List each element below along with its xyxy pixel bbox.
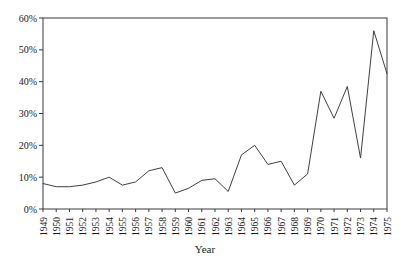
y-tick-label: 0% — [24, 204, 37, 215]
x-tick-label: 1966 — [263, 217, 273, 236]
x-tick-label: 1975 — [383, 217, 393, 236]
x-tick-label: 1970 — [316, 217, 326, 236]
x-tick-label: 1962 — [211, 217, 221, 236]
x-tick-label: 1963 — [224, 217, 234, 236]
x-tick-label: 1971 — [330, 217, 340, 236]
x-tick-label: 1972 — [343, 217, 353, 236]
x-tick-label: 1954 — [105, 217, 115, 236]
x-tick-label: 1965 — [250, 217, 260, 236]
x-tick-label: 1960 — [184, 217, 194, 236]
x-tick-label: 1958 — [158, 217, 168, 236]
x-tick-label: 1959 — [171, 217, 181, 236]
x-tick-label: 1961 — [197, 217, 207, 236]
y-tick-label: 50% — [19, 44, 37, 55]
y-tick-label: 20% — [19, 140, 37, 151]
x-tick-label: 1968 — [290, 217, 300, 236]
x-tick-label: 1969 — [303, 217, 313, 236]
x-tick-label: 1950 — [52, 217, 62, 236]
y-tick-label: 10% — [19, 172, 37, 183]
y-tick-label: 40% — [19, 76, 37, 87]
y-tick-label: 60% — [19, 13, 37, 24]
x-tick-label: 1974 — [369, 217, 379, 236]
x-tick-label: 1952 — [78, 217, 88, 236]
data-line — [43, 31, 387, 193]
x-tick-label: 1956 — [131, 217, 141, 236]
plot-border — [43, 18, 387, 209]
x-tick-label: 1953 — [91, 217, 101, 236]
x-tick-label: 1949 — [39, 217, 49, 236]
x-tick-label: 1967 — [277, 217, 287, 236]
y-tick-label: 30% — [19, 108, 37, 119]
x-tick-label: 1951 — [65, 217, 75, 236]
x-tick-label: 1964 — [237, 217, 247, 236]
x-axis-title: Year — [0, 243, 410, 255]
x-tick-label: 1957 — [144, 217, 154, 236]
x-tick-label: 1973 — [356, 217, 366, 236]
x-tick-label: 1955 — [118, 217, 128, 236]
chart-plot-area: 0%10%20%30%40%50%60%19491950195119521953… — [0, 0, 410, 272]
line-chart-figure: 0%10%20%30%40%50%60%19491950195119521953… — [0, 0, 410, 272]
